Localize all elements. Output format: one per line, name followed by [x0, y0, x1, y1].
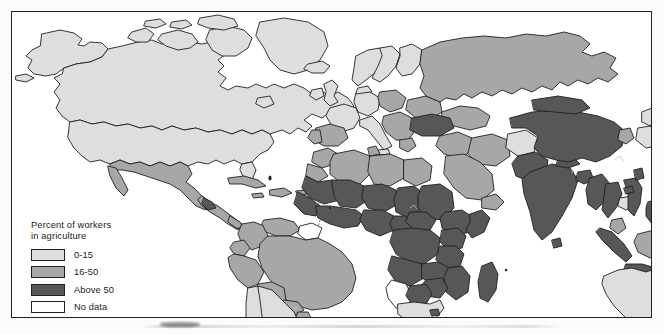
- region-greece: [400, 138, 416, 152]
- region-guyanas: [298, 223, 322, 240]
- scan-artifact-1: [614, 156, 624, 162]
- region-libya: [368, 154, 404, 186]
- region-aleutians: [16, 74, 34, 82]
- legend-swatch-above-50: [31, 284, 65, 296]
- region-hispaniola: [270, 188, 292, 197]
- region-germany: [354, 92, 380, 116]
- region-finland: [396, 44, 422, 76]
- region-banks-island: [128, 28, 154, 42]
- map-figure: Percent of workersin agriculture 0-15 16…: [0, 0, 664, 334]
- region-sri-lanka: [552, 238, 562, 248]
- region-poland: [378, 90, 406, 112]
- region-tunisia: [368, 146, 380, 156]
- region-borneo: [634, 230, 651, 258]
- legend-label-no-data: No data: [74, 302, 107, 312]
- region-sumatra: [596, 228, 632, 262]
- region-egypt: [404, 158, 432, 186]
- region-nigeria: [360, 210, 394, 236]
- legend-label-0-15: 0-15: [74, 250, 93, 260]
- region-japan: [642, 108, 651, 126]
- region-afghanistan: [506, 130, 538, 156]
- legend-row-16-50: 16-50: [31, 264, 191, 280]
- region-thailand: [602, 182, 622, 218]
- map-frame: Percent of workersin agriculture 0-15 16…: [11, 11, 652, 318]
- region-ellesmere-island: [198, 15, 238, 30]
- legend-title: Percent of workersin agriculture: [31, 220, 191, 243]
- region-cuba: [228, 176, 266, 188]
- legend-row-0-15: 0-15: [31, 247, 191, 263]
- legend-row-above-50: Above 50: [31, 282, 191, 298]
- legend-title-line2: in agriculture: [31, 231, 86, 241]
- region-west-africa-coast: [316, 206, 364, 228]
- region-pacific-speck-5: [571, 171, 573, 173]
- region-hainan: [624, 186, 634, 194]
- region-arctic-islet-1: [170, 20, 192, 29]
- region-russia: [420, 32, 618, 102]
- region-arctic-islet-2: [144, 19, 166, 28]
- legend-title-line1: Percent of workers: [31, 220, 111, 230]
- legend-swatch-16-50: [31, 266, 65, 278]
- region-portugal: [308, 130, 322, 144]
- legend-label-16-50: 16-50: [74, 267, 98, 277]
- region-jamaica: [252, 193, 264, 198]
- region-somalia: [466, 210, 490, 238]
- scan-artifact-3: [295, 307, 298, 309]
- region-indian-ocean-speck: [505, 269, 507, 271]
- region-niger: [362, 184, 398, 212]
- region-venezuela: [262, 218, 300, 236]
- scan-smudge-blob: [160, 322, 200, 327]
- region-uruguay: [296, 312, 312, 317]
- region-turkey: [410, 114, 454, 136]
- region-lesotho: [430, 309, 440, 316]
- region-algeria: [330, 150, 372, 184]
- scan-smudge: [140, 325, 560, 328]
- region-madagascar: [478, 262, 498, 302]
- legend-row-no-data: No data: [31, 299, 191, 315]
- legend-swatch-no-data: [31, 301, 65, 313]
- region-taiwan: [634, 168, 644, 180]
- region-philippines: [646, 198, 651, 224]
- legend-swatch-0-15: [31, 249, 65, 261]
- region-mozambique: [444, 266, 470, 300]
- region-india: [522, 164, 578, 240]
- region-australia: [602, 268, 651, 317]
- legend-label-above-50: Above 50: [74, 285, 114, 295]
- region-korea: [618, 128, 634, 144]
- region-bahamas-speck: [268, 175, 271, 180]
- region-botswana: [406, 284, 432, 304]
- region-japan-main: [636, 126, 651, 148]
- map-legend: Percent of workersin agriculture 0-15 16…: [31, 220, 191, 317]
- region-malaysia: [610, 218, 626, 234]
- region-atlantic-speck: [329, 207, 331, 209]
